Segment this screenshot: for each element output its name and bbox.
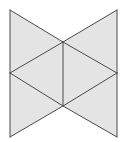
geometric-net-diagram: [0, 0, 120, 142]
